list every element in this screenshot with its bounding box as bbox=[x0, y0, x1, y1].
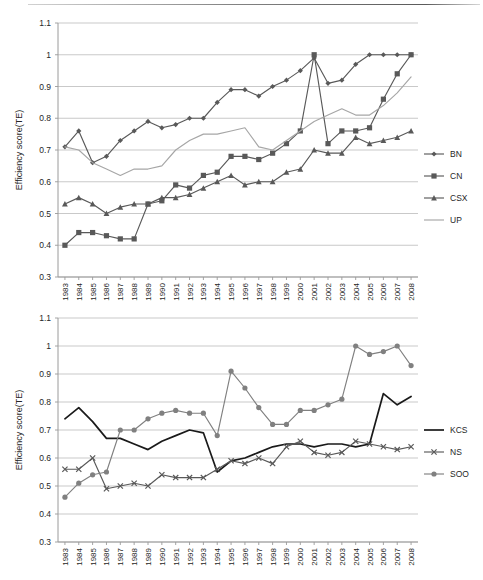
x-axis-tick-label: 1991 bbox=[172, 547, 181, 565]
series-KCS bbox=[65, 394, 411, 472]
data-point-SOO bbox=[284, 422, 289, 427]
data-point-CN bbox=[228, 154, 233, 159]
data-point-BN bbox=[381, 52, 386, 57]
chart-bottom-railroads: 0.30.40.50.60.70.80.911.1198319841985198… bbox=[0, 308, 483, 576]
data-point-CN bbox=[132, 236, 137, 241]
legend-item-KCS[interactable]: KCS bbox=[424, 425, 468, 435]
x-axis-tick-label: 1993 bbox=[199, 547, 208, 565]
data-point-SOO bbox=[256, 405, 261, 410]
y-axis-tick-label: 1 bbox=[46, 50, 51, 60]
x-axis-tick-label: 1990 bbox=[158, 547, 167, 565]
legend-item-CN[interactable]: CN bbox=[424, 171, 462, 181]
legend-label-BN: BN bbox=[450, 149, 462, 159]
legend-item-UP[interactable]: UP bbox=[424, 215, 462, 225]
x-axis-tick-label: 1988 bbox=[130, 547, 139, 565]
legend-label-UP: UP bbox=[450, 215, 462, 225]
data-point-SOO bbox=[62, 495, 67, 500]
data-point-SOO bbox=[90, 472, 95, 477]
legend-item-NS[interactable]: NS bbox=[424, 447, 462, 457]
legend-label-CN: CN bbox=[450, 171, 462, 181]
y-axis-tick-label: 0.9 bbox=[39, 82, 51, 92]
series-CSX bbox=[62, 128, 414, 216]
data-point-BN bbox=[395, 52, 400, 57]
chart-bottom-svg: 0.30.40.50.60.70.80.911.1198319841985198… bbox=[0, 308, 483, 576]
legend-marker-SOO bbox=[431, 471, 436, 476]
y-axis-tick-label: 0.8 bbox=[39, 113, 51, 123]
y-axis-tick-label: 1.1 bbox=[39, 18, 51, 28]
y-axis-tick-label: 0.3 bbox=[39, 272, 51, 282]
x-axis-tick-label: 1999 bbox=[282, 547, 291, 565]
x-axis-tick-label: 2004 bbox=[352, 547, 361, 565]
data-point-BN bbox=[242, 87, 247, 92]
x-axis-tick-label: 1983 bbox=[61, 282, 70, 300]
legend-label-NS: NS bbox=[450, 447, 462, 457]
y-axis-tick-label: 0.4 bbox=[39, 509, 51, 519]
data-point-CN bbox=[76, 230, 81, 235]
data-point-CN bbox=[256, 157, 261, 162]
x-axis-tick-label: 2006 bbox=[379, 547, 388, 565]
data-point-CSX bbox=[90, 201, 96, 207]
x-axis-tick-label: 1989 bbox=[144, 282, 153, 300]
data-point-SOO bbox=[76, 481, 81, 486]
legend-item-BN[interactable]: BN bbox=[424, 149, 462, 159]
data-point-CN bbox=[118, 236, 123, 241]
x-axis-tick-label: 2001 bbox=[310, 282, 319, 300]
data-point-CN bbox=[381, 97, 386, 102]
data-point-BN bbox=[159, 125, 164, 130]
data-point-BN bbox=[173, 122, 178, 127]
data-point-SOO bbox=[159, 411, 164, 416]
y-axis-tick-label: 1 bbox=[46, 341, 51, 351]
y-axis-tick-label: 0.7 bbox=[39, 145, 51, 155]
data-point-CSX bbox=[76, 195, 82, 201]
x-axis-tick-label: 2008 bbox=[407, 547, 416, 565]
legend: BNCNCSXUP bbox=[424, 149, 468, 225]
gridlines: 0.30.40.50.60.70.80.911.1 bbox=[39, 18, 418, 282]
data-point-CN bbox=[325, 141, 330, 146]
data-point-SOO bbox=[270, 422, 275, 427]
y-axis-tick-label: 0.3 bbox=[39, 537, 51, 547]
x-axis-tick-label: 2003 bbox=[338, 547, 347, 565]
data-point-CN bbox=[395, 71, 400, 76]
data-point-NS bbox=[270, 461, 275, 466]
x-axis-tick-label: 2003 bbox=[338, 282, 347, 300]
data-point-SOO bbox=[353, 343, 358, 348]
x-axis-tick-label: 1984 bbox=[75, 547, 84, 565]
data-point-SOO bbox=[145, 416, 150, 421]
x-axis-tick-label: 2007 bbox=[393, 282, 402, 300]
legend-item-SOO[interactable]: SOO bbox=[424, 469, 469, 479]
x-axis-tick-label: 1984 bbox=[75, 282, 84, 300]
x-axis-tick-label: 2004 bbox=[352, 282, 361, 300]
x-axis-tick-label: 2001 bbox=[310, 547, 319, 565]
data-point-CN bbox=[312, 52, 317, 57]
data-point-CSX bbox=[62, 201, 68, 207]
data-point-SOO bbox=[132, 427, 137, 432]
x-axis-tick-label: 1985 bbox=[89, 282, 98, 300]
y-axis-title: Efficiency score(TE) bbox=[14, 390, 24, 470]
x-axis-tick-label: 2000 bbox=[296, 547, 305, 565]
data-point-CN bbox=[242, 154, 247, 159]
legend: KCSNSSOO bbox=[424, 425, 469, 479]
x-axis-tick-label: 2007 bbox=[393, 547, 402, 565]
data-point-CN bbox=[201, 173, 206, 178]
chart-top-railroads: 0.30.40.50.60.70.80.911.1198319841985198… bbox=[0, 8, 483, 308]
x-axis-tick-label: 1983 bbox=[61, 547, 70, 565]
data-point-BN bbox=[187, 116, 192, 121]
x-axis-tick-label: 1986 bbox=[102, 282, 111, 300]
chart-top-svg: 0.30.40.50.60.70.80.911.1198319841985198… bbox=[0, 8, 483, 308]
data-point-SOO bbox=[201, 411, 206, 416]
x-axis-tick-label: 1997 bbox=[255, 282, 264, 300]
y-axis-tick-label: 0.6 bbox=[39, 453, 51, 463]
x-axis: 1983198419851986198719881989199019911992… bbox=[61, 542, 416, 566]
x-axis-tick-label: 1985 bbox=[89, 547, 98, 565]
data-point-SOO bbox=[173, 408, 178, 413]
x-axis: 1983198419851986198719881989199019911992… bbox=[61, 277, 416, 301]
x-axis-tick-label: 1996 bbox=[241, 282, 250, 300]
data-point-CN bbox=[339, 128, 344, 133]
data-point-CN bbox=[215, 170, 220, 175]
data-point-SOO bbox=[339, 397, 344, 402]
legend-item-CSX[interactable]: CSX bbox=[424, 193, 468, 203]
legend-label-CSX: CSX bbox=[450, 193, 468, 203]
data-point-CN bbox=[104, 233, 109, 238]
series-BN bbox=[62, 52, 413, 165]
x-axis-tick-label: 1998 bbox=[269, 282, 278, 300]
